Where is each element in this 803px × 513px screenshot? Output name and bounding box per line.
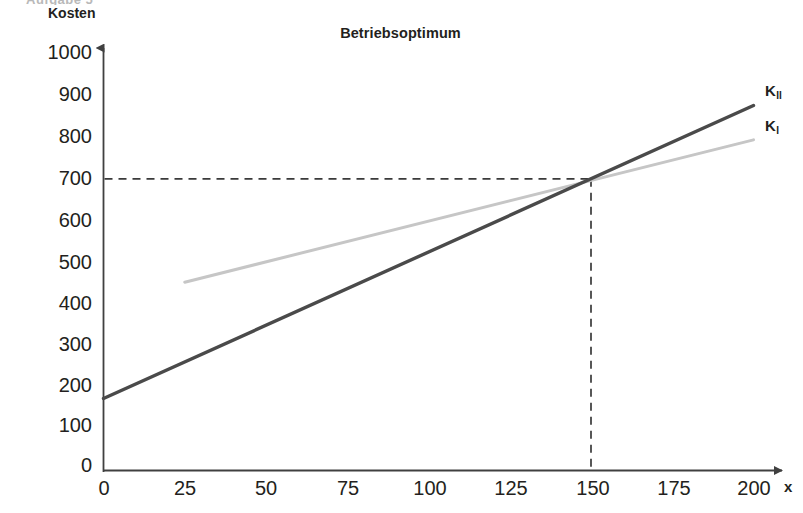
chart-figure: Aufgabe 5 Kosten Betriebsoptimum 1000 90… (0, 0, 803, 513)
series-label-k2: KII (765, 82, 781, 99)
series-label-k1-text: K (765, 117, 776, 134)
series-label-k2-sub: II (776, 90, 782, 101)
series-label-k1-sub: I (776, 125, 779, 136)
series-line-k1 (185, 140, 754, 282)
series-line-k2 (104, 106, 754, 399)
series-label-k2-text: K (765, 82, 776, 99)
series-label-k1: KI (765, 117, 779, 134)
chart-plot-area (0, 0, 803, 513)
